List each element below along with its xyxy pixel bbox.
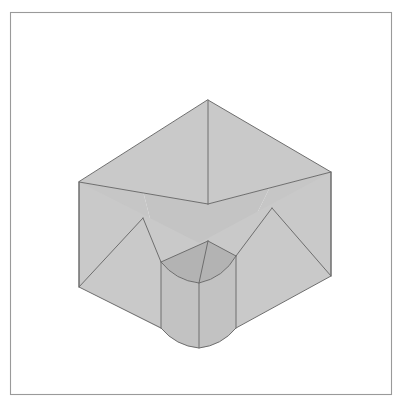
drawing-canvas bbox=[0, 0, 399, 408]
isometric-figure bbox=[0, 0, 399, 408]
